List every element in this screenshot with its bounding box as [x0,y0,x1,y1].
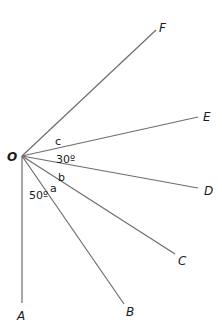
rays [22,30,198,304]
ray-oc [22,156,175,254]
point-label-d: D [204,184,213,198]
point-label-e: E [203,110,211,124]
point-label-f: F [159,21,167,35]
point-label-c: C [178,254,187,268]
ray-oe [22,117,198,156]
ray-od [22,156,198,188]
point-label-b: B [126,305,134,319]
ray-ob [22,156,124,304]
angle-diagram: O A B C D E F 50º a b 30º c [0,0,222,335]
origin-label: O [7,150,17,164]
point-label-a: A [16,309,25,323]
angle-label-cod: b [58,171,65,184]
ray-of [22,30,156,156]
angle-label-doe: 30º [56,153,75,166]
angle-label-boc: a [50,182,57,195]
angle-label-aob: 50º [29,189,48,202]
angle-label-eof: c [55,135,61,148]
